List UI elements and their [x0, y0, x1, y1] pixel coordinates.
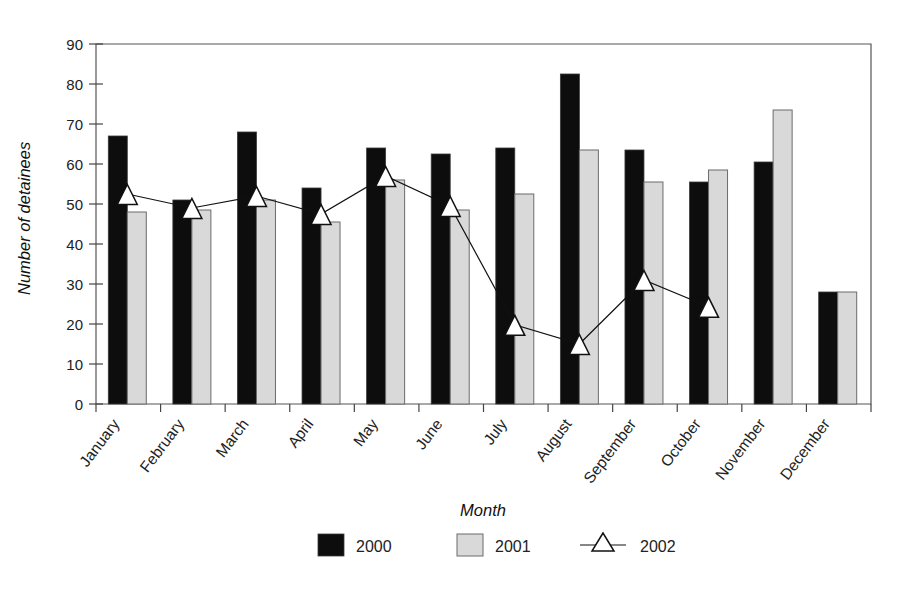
legend-label-2002: 2002 — [640, 538, 676, 555]
x-tick-label-may: May — [350, 415, 381, 449]
y-tick-label: 10 — [66, 356, 83, 373]
bar-2001 — [192, 210, 211, 404]
detainees-bar-chart: 0102030405060708090 Number of detainees … — [0, 0, 908, 592]
x-tick-label-july: July — [480, 415, 510, 447]
x-tick-label-january: January — [76, 415, 123, 469]
x-tick-label-december: December — [776, 416, 833, 483]
y-tick-label: 20 — [66, 316, 83, 333]
x-tick-label-june: June — [412, 416, 446, 453]
y-tick-label: 30 — [66, 276, 83, 293]
bar-2000 — [754, 162, 773, 404]
bar-2001 — [386, 180, 405, 404]
bar-2000 — [173, 200, 192, 404]
x-tick-label-march: March — [212, 416, 252, 461]
x-tick-label-february: February — [136, 415, 187, 475]
legend-swatch-2000 — [318, 534, 344, 556]
legend-label-2001: 2001 — [495, 538, 531, 555]
bar-2001 — [644, 182, 663, 404]
chart-legend: 200020012002 — [318, 533, 676, 556]
bar-2001 — [838, 292, 857, 404]
bar-2001 — [709, 170, 728, 404]
x-tick-label-november: November — [712, 416, 769, 483]
bar-2001 — [773, 110, 792, 404]
y-tick-label: 40 — [66, 236, 83, 253]
y-tick-label: 80 — [66, 76, 83, 93]
bar-2000 — [237, 132, 256, 404]
legend-marker-2002-triangle — [592, 533, 614, 551]
y-tick-label: 70 — [66, 116, 83, 133]
x-tick-label-april: April — [284, 416, 316, 451]
x-axis-title: Month — [460, 501, 506, 519]
bar-series-2000 — [108, 74, 837, 404]
y-tick-label: 90 — [66, 36, 83, 53]
bar-2001 — [579, 150, 598, 404]
y-axis-title: Number of detainees — [15, 142, 33, 295]
x-axis-ticks — [96, 404, 871, 412]
bar-2000 — [690, 182, 709, 404]
chart-container: 0102030405060708090 Number of detainees … — [0, 0, 908, 592]
bar-2000 — [819, 292, 838, 404]
y-tick-label: 0 — [75, 396, 83, 413]
bar-series-2001 — [127, 110, 856, 404]
bar-2001 — [127, 212, 146, 404]
x-axis-labels: JanuaryFebruaryMarchAprilMayJuneJulyAugu… — [76, 415, 833, 486]
y-tick-label: 50 — [66, 196, 83, 213]
bar-2000 — [108, 136, 127, 404]
bar-2000 — [431, 154, 450, 404]
legend-label-2000: 2000 — [356, 538, 392, 555]
x-tick-label-october: October — [657, 416, 704, 470]
legend-swatch-2001 — [457, 534, 483, 556]
x-tick-label-september: September — [580, 416, 639, 487]
bar-2001 — [256, 200, 275, 404]
line-2002-path — [127, 176, 708, 344]
bar-2000 — [496, 148, 515, 404]
y-tick-label: 60 — [66, 156, 83, 173]
y-axis: 0102030405060708090 — [66, 36, 103, 413]
bar-2001 — [515, 194, 534, 404]
bar-2001 — [450, 210, 469, 404]
bar-2001 — [321, 222, 340, 404]
x-tick-label-august: August — [532, 415, 575, 464]
